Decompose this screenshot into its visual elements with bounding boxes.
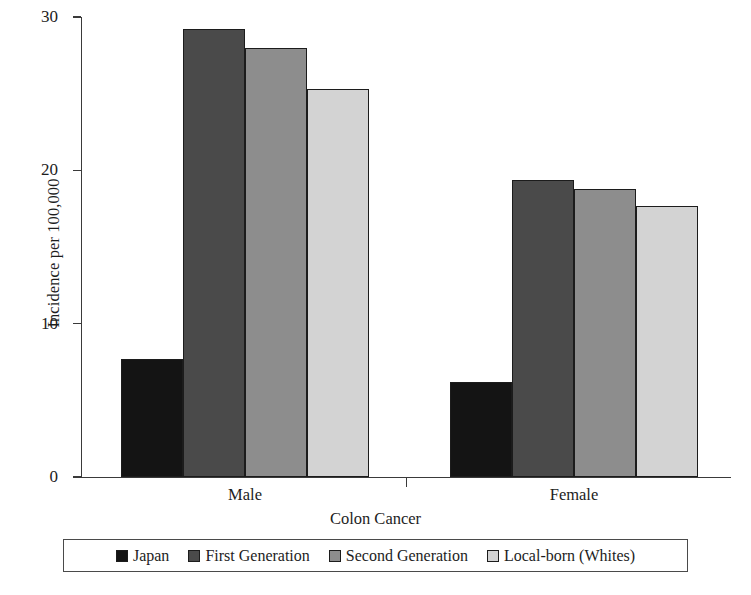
bar-japan-female	[450, 382, 512, 477]
legend-swatch-icon	[329, 550, 341, 562]
legend-swatch-icon	[188, 550, 200, 562]
bar-second-generation-male	[245, 48, 307, 477]
chart-legend: JapanFirst GenerationSecond GenerationLo…	[63, 539, 688, 572]
legend-item-first-generation[interactable]: First Generation	[188, 547, 309, 565]
x-category-label-female: Female	[514, 485, 634, 505]
y-tick-label: 30	[18, 8, 58, 25]
legend-item-second-generation[interactable]: Second Generation	[329, 547, 468, 565]
y-tick-mark	[73, 170, 81, 171]
y-tick-mark	[73, 476, 81, 477]
y-tick-mark	[73, 16, 81, 17]
legend-label: First Generation	[205, 547, 309, 565]
bar-first-generation-female	[512, 180, 574, 477]
bar-first-generation-male	[183, 29, 245, 477]
bar-local-born-whites-male	[307, 89, 369, 477]
bar-second-generation-female	[574, 189, 636, 477]
bar-local-born-whites-female	[636, 206, 698, 477]
legend-item-local-born-whites[interactable]: Local-born (Whites)	[487, 547, 635, 565]
legend-swatch-icon	[487, 550, 499, 562]
legend-item-japan[interactable]: Japan	[116, 547, 169, 565]
legend-label: Local-born (Whites)	[504, 547, 635, 565]
y-tick-mark	[73, 323, 81, 324]
bars-layer	[81, 17, 731, 477]
y-tick-label: 0	[18, 468, 58, 485]
legend-label: Second Generation	[346, 547, 468, 565]
bar-japan-male	[121, 359, 183, 477]
y-tick-label: 10	[18, 315, 58, 332]
y-tick-label: 20	[18, 161, 58, 178]
x-category-label-male: Male	[185, 485, 305, 505]
legend-label: Japan	[133, 547, 169, 565]
x-axis-group-tick	[406, 478, 407, 487]
x-axis-label: Colon Cancer	[0, 509, 751, 529]
bar-chart: Incidence per 100,000 0102030 MaleFemale…	[0, 0, 751, 595]
legend-swatch-icon	[116, 550, 128, 562]
y-axis-label: Incidence per 100,000	[44, 113, 64, 393]
